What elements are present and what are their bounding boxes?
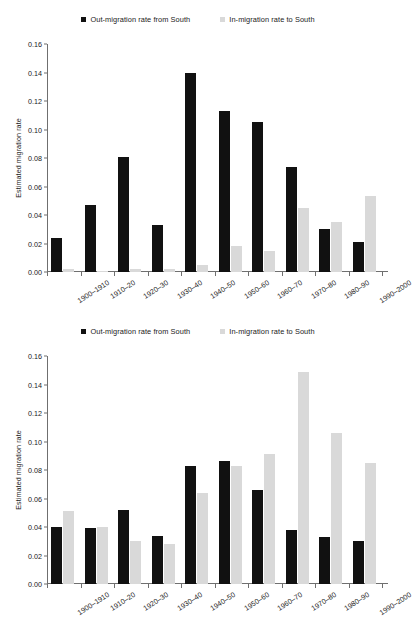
x-axis-labels: 1900–19101910–201920–301930–401940–50195… xyxy=(47,584,382,624)
x-axis-tick-label: 1930–40 xyxy=(175,590,203,613)
x-axis-tick-label: 1990–2000 xyxy=(378,590,413,617)
legend-swatch-icon xyxy=(81,17,86,22)
bar-out-migration xyxy=(85,528,96,584)
bar-group xyxy=(349,356,383,584)
bar-out-migration xyxy=(51,527,62,584)
bar-in-migration xyxy=(298,372,309,584)
legend-label: In-migration rate to South xyxy=(229,328,314,335)
plot-area: 0.000.020.040.060.080.100.120.140.161900… xyxy=(47,44,382,272)
x-axis-tick-label: 1910–20 xyxy=(108,278,136,301)
bar-group xyxy=(349,44,383,272)
bar-group xyxy=(148,44,182,272)
bar-in-migration xyxy=(264,454,275,584)
chart-legend: Out-migration rate from SouthIn-migratio… xyxy=(0,328,396,335)
legend-label: In-migration rate to South xyxy=(229,16,314,23)
bar-group xyxy=(114,356,148,584)
bar-group xyxy=(181,44,215,272)
bar-out-migration xyxy=(319,537,330,584)
bar-group xyxy=(81,356,115,584)
bar-out-migration xyxy=(219,111,230,272)
bar-out-migration xyxy=(252,490,263,584)
bar-out-migration xyxy=(152,536,163,584)
bar-in-migration xyxy=(264,251,275,272)
bar-in-migration xyxy=(231,466,242,584)
bar-out-migration xyxy=(219,461,230,584)
chart-legend: Out-migration rate from SouthIn-migratio… xyxy=(0,16,396,23)
bar-group xyxy=(248,356,282,584)
bar-out-migration xyxy=(85,205,96,272)
bar-out-migration xyxy=(252,122,263,272)
x-axis-tick-label: 1970–80 xyxy=(309,590,337,613)
x-axis-tick-label: 1980–90 xyxy=(343,590,371,613)
bar-in-migration xyxy=(164,544,175,584)
x-axis-labels: 1900–19101910–201920–301930–401940–50195… xyxy=(47,272,382,312)
bar-group xyxy=(315,44,349,272)
x-axis-tick-label: 1940–50 xyxy=(209,590,237,613)
y-axis-title: Estimated migration rate xyxy=(14,118,23,198)
bar-group xyxy=(215,356,249,584)
x-axis-tick-label: 1910–20 xyxy=(108,590,136,613)
x-axis-tick-label: 1920–30 xyxy=(142,590,170,613)
bar-group xyxy=(282,356,316,584)
bar-group xyxy=(81,44,115,272)
x-axis-tick-label: 1980–90 xyxy=(343,278,371,301)
x-axis-tick-label: 1950–60 xyxy=(242,590,270,613)
x-axis-tick-label: 1950–60 xyxy=(242,278,270,301)
bar-out-migration xyxy=(185,466,196,584)
bar-out-migration xyxy=(353,541,364,584)
bar-group xyxy=(215,44,249,272)
bar-in-migration xyxy=(231,246,242,272)
bar-group-container xyxy=(47,44,382,272)
bar-in-migration xyxy=(365,463,376,584)
x-axis-tick-label: 1930–40 xyxy=(175,278,203,301)
bar-out-migration xyxy=(51,238,62,272)
bar-group xyxy=(114,44,148,272)
top-chart-figure: Out-migration rate from SouthIn-migratio… xyxy=(0,0,396,312)
bar-group xyxy=(47,44,81,272)
bar-group xyxy=(248,44,282,272)
x-axis-tick-label: 1940–50 xyxy=(209,278,237,301)
x-axis-tick-label: 1920–30 xyxy=(142,278,170,301)
bar-in-migration xyxy=(97,527,108,584)
bar-in-migration xyxy=(331,433,342,584)
bar-out-migration xyxy=(319,229,330,272)
legend-entry-out-migration: Out-migration rate from South xyxy=(81,16,190,23)
bar-out-migration xyxy=(185,73,196,273)
bar-in-migration xyxy=(365,196,376,272)
bar-group xyxy=(282,44,316,272)
legend-swatch-icon xyxy=(220,329,225,334)
bar-out-migration xyxy=(286,530,297,584)
bar-out-migration xyxy=(353,242,364,272)
y-axis-title: Estimated migration rate xyxy=(14,430,23,510)
x-axis-tick-label: 1960–70 xyxy=(276,590,304,613)
x-axis-tick-label: 1960–70 xyxy=(276,278,304,301)
plot-area: 0.000.020.040.060.080.100.120.140.161900… xyxy=(47,356,382,584)
bar-group xyxy=(315,356,349,584)
bar-in-migration xyxy=(197,493,208,584)
x-axis-tick-mark xyxy=(382,272,383,276)
legend-entry-in-migration: In-migration rate to South xyxy=(220,16,314,23)
legend-swatch-icon xyxy=(220,17,225,22)
x-axis-tick-label: 1900–1910 xyxy=(76,278,111,305)
legend-label: Out-migration rate from South xyxy=(90,328,190,335)
bar-in-migration xyxy=(63,511,74,584)
bar-in-migration xyxy=(298,208,309,272)
bar-group xyxy=(148,356,182,584)
bar-group xyxy=(181,356,215,584)
x-axis-tick-mark xyxy=(382,584,383,588)
bar-out-migration xyxy=(118,510,129,584)
bar-out-migration xyxy=(118,157,129,272)
legend-entry-out-migration: Out-migration rate from South xyxy=(81,328,190,335)
bottom-chart-figure: Out-migration rate from SouthIn-migratio… xyxy=(0,312,396,624)
bar-in-migration xyxy=(197,265,208,272)
legend-label: Out-migration rate from South xyxy=(90,16,190,23)
bar-out-migration xyxy=(286,167,297,272)
bar-in-migration xyxy=(130,541,141,584)
bar-in-migration xyxy=(331,222,342,272)
x-axis-tick-label: 1900–1910 xyxy=(76,590,111,617)
legend-entry-in-migration: In-migration rate to South xyxy=(220,328,314,335)
bar-group-container xyxy=(47,356,382,584)
bar-out-migration xyxy=(152,225,163,272)
legend-swatch-icon xyxy=(81,329,86,334)
